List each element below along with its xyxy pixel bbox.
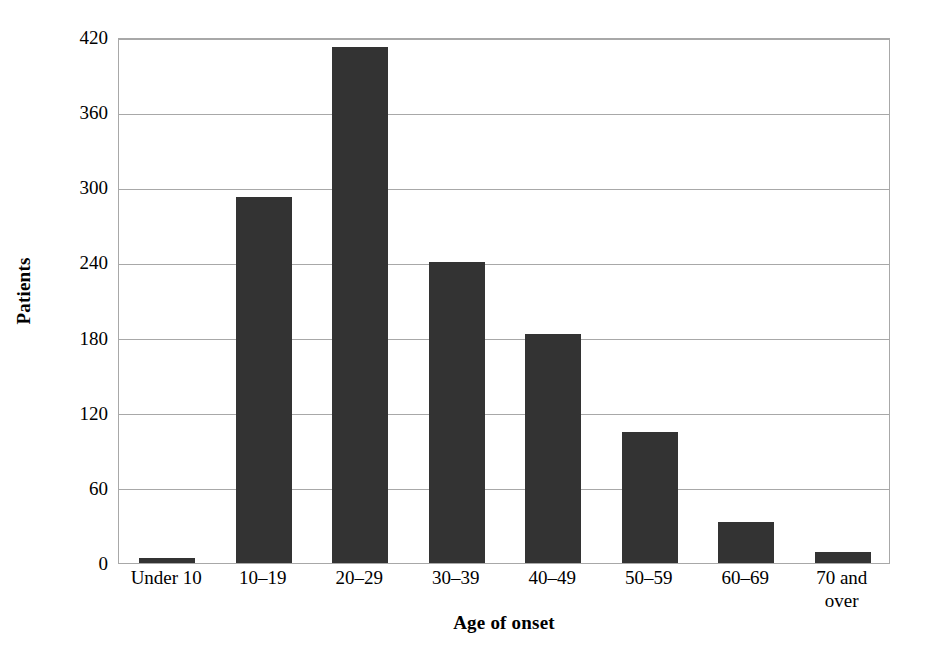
plot-area bbox=[118, 38, 890, 564]
x-axis-tick-label: 60–69 bbox=[697, 566, 794, 589]
x-axis-tick-label: 30–39 bbox=[408, 566, 505, 589]
bar bbox=[815, 552, 871, 563]
bar-series bbox=[119, 39, 889, 563]
bar bbox=[622, 432, 678, 564]
bar bbox=[429, 262, 485, 563]
bar bbox=[139, 558, 195, 563]
bar-chart-figure: Patients 060120180240300360420 Under 101… bbox=[0, 0, 926, 657]
bar bbox=[525, 334, 581, 563]
y-axis-tick-label: 180 bbox=[0, 329, 108, 348]
x-axis-title: Age of onset bbox=[118, 612, 890, 634]
y-axis-tick-label: 60 bbox=[0, 479, 108, 498]
y-axis-tick-label: 240 bbox=[0, 253, 108, 272]
x-axis-tick-label: 10–19 bbox=[215, 566, 312, 589]
y-axis-tick-labels: 060120180240300360420 bbox=[0, 0, 108, 657]
bar bbox=[332, 47, 388, 563]
x-axis-tick-label: Under 10 bbox=[118, 566, 215, 589]
bar bbox=[236, 197, 292, 563]
x-axis-tick-label: 20–29 bbox=[311, 566, 408, 589]
x-axis-tick-label: 40–49 bbox=[504, 566, 601, 589]
x-axis-tick-label: 50–59 bbox=[601, 566, 698, 589]
y-axis-tick-label: 0 bbox=[0, 554, 108, 573]
bar bbox=[718, 522, 774, 563]
y-axis-tick-label: 300 bbox=[0, 178, 108, 197]
y-axis-tick-label: 120 bbox=[0, 404, 108, 423]
y-axis-tick-label: 420 bbox=[0, 28, 108, 47]
x-axis-tick-label: 70 and over bbox=[794, 566, 891, 612]
y-axis-tick-label: 360 bbox=[0, 103, 108, 122]
